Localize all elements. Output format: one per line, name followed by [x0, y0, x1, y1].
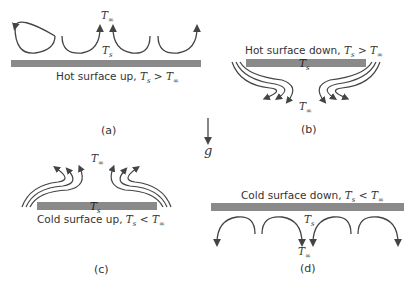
- caption-b: Hot surface down, Ts > T∞: [245, 44, 383, 59]
- surface-temp-label-b: Ts: [299, 57, 310, 72]
- caption-a: Hot surface up, Ts > T∞: [56, 70, 179, 85]
- caption-d: Cold surface down, Ts < T∞: [241, 189, 384, 204]
- hot-plate-a: [11, 60, 201, 67]
- ambient-temp-label-a: T∞: [101, 9, 114, 24]
- flow-cell: [15, 22, 55, 36]
- ambient-temp-label-c: T∞: [91, 152, 104, 167]
- panel-label-d: (d): [300, 262, 316, 275]
- ambient-temp-label-b: T∞: [299, 100, 312, 115]
- ambient-temp-label-d: T∞: [298, 245, 311, 260]
- surface-temp-label-a: Ts: [102, 44, 113, 59]
- panel-label-c: (c): [94, 263, 109, 276]
- caption-c: Cold surface up, Ts < T∞: [37, 213, 165, 228]
- panel-label-a: (a): [101, 124, 116, 137]
- cold-plate-d: [211, 203, 404, 211]
- gravity-label: g: [204, 143, 212, 158]
- panel-label-b: (b): [301, 123, 317, 136]
- surface-temp-label-d: Ts: [304, 213, 315, 228]
